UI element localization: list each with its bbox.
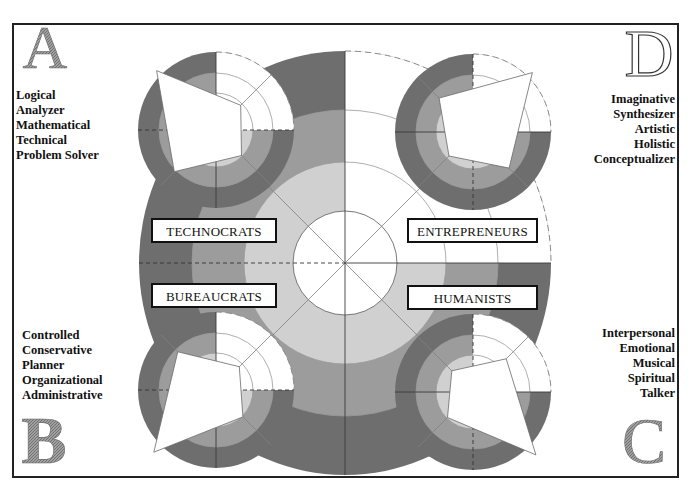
traits-list-d: Imaginative Synthesizer Artistic Holisti… [594,92,676,166]
profile-wheel-bureaucrats [138,312,294,468]
trait-item: Artistic [635,122,676,136]
label-text: BUREAUCRATS [166,289,262,304]
trait-item: Emotional [619,341,675,355]
trait-item: Conceptualizer [594,152,676,166]
trait-item: Musical [633,356,676,370]
traits-list-c: Interpersonal Emotional Musical Spiritua… [602,326,675,400]
trait-item: Talker [640,386,675,400]
trait-item: Spiritual [628,371,676,385]
trait-item: Synthesizer [613,107,675,121]
trait-item: Technical [16,133,67,147]
trait-item: Holistic [634,137,675,151]
profile-wheel-entrepreneurs [395,54,551,210]
label-entrepreneurs: ENTREPRENEURS [408,219,537,242]
trait-item: Organizational [22,373,103,387]
label-text: HUMANISTS [434,291,512,306]
label-technocrats: TECHNOCRATS [152,219,276,242]
trait-item: Imaginative [611,92,675,106]
trait-item: Logical [16,88,56,102]
label-humanists: HUMANISTS [408,286,537,309]
trait-item: Mathematical [16,118,91,132]
profile-wheel-humanists [395,314,551,470]
quadrant-letter-b: B [21,402,66,478]
whole-brain-diagram: TECHNOCRATS ENTREPRENEURS BUREAUCRATS HU… [0,0,690,493]
trait-item: Conservative [22,343,93,357]
traits-list-b: Controlled Conservative Planner Organiza… [22,328,103,402]
trait-item: Planner [22,358,65,372]
trait-item: Problem Solver [16,148,99,162]
trait-item: Controlled [22,328,79,342]
trait-item: Administrative [22,388,103,402]
profile-wheel-technocrats [138,52,294,208]
quadrant-letter-d: D [624,15,673,91]
label-bureaucrats: BUREAUCRATS [152,284,276,307]
quadrant-letter-c: C [622,404,666,477]
label-text: ENTREPRENEURS [417,224,528,239]
trait-item: Analyzer [16,103,65,117]
trait-item: Interpersonal [602,326,675,340]
traits-list-a: Logical Analyzer Mathematical Technical … [16,88,99,162]
label-text: TECHNOCRATS [166,224,261,239]
